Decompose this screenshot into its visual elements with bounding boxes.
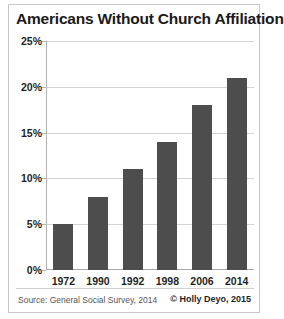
y-tick-mark <box>42 133 46 134</box>
source-note: Source: General Social Survey, 2014 <box>18 295 157 306</box>
bar <box>227 78 247 270</box>
bar <box>53 224 73 270</box>
y-tick-mark <box>42 224 46 225</box>
y-tick-mark <box>42 41 46 42</box>
y-tick-mark <box>42 178 46 179</box>
footer-divider <box>16 288 254 289</box>
bar <box>123 169 143 270</box>
y-tick-label: 20% <box>8 81 42 92</box>
y-axis-labels: 25%20%15%10%5%0% <box>9 41 42 270</box>
bars-layer <box>46 41 254 270</box>
chart-card: Americans Without Church Affiliation 25%… <box>8 4 260 313</box>
plot-wrapper: 25%20%15%10%5%0% 19721990199219982006201… <box>9 33 261 281</box>
y-tick-label: 25% <box>8 36 42 47</box>
x-tick-label: 2014 <box>217 274 257 288</box>
y-tick-label: 10% <box>8 173 42 184</box>
copyright-note: © Holly Deyo, 2015 <box>170 294 251 305</box>
bar <box>157 142 177 270</box>
y-tick-label: 5% <box>8 219 42 230</box>
bar <box>192 105 212 270</box>
y-tick-label: 0% <box>8 265 42 276</box>
y-tick-mark <box>42 87 46 88</box>
chart-title: Americans Without Church Affiliation <box>16 9 260 28</box>
bar <box>88 197 108 270</box>
y-tick-label: 15% <box>8 127 42 138</box>
y-tick-mark <box>42 270 46 271</box>
